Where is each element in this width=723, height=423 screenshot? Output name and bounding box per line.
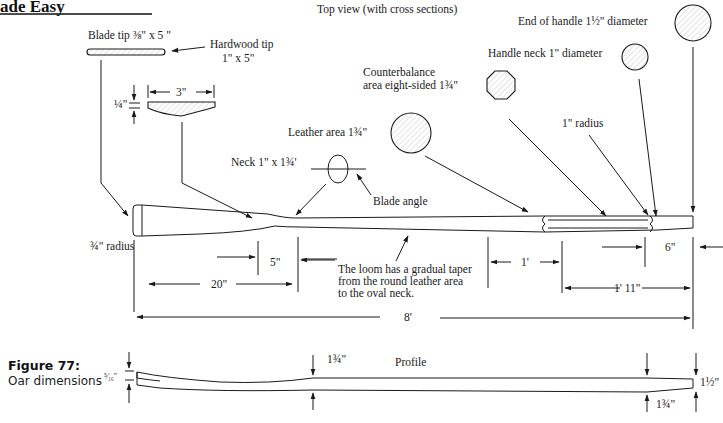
- figure-number: Figure 77:: [8, 358, 80, 373]
- leather-groove-right: [650, 216, 653, 232]
- blade-section-leader: [182, 122, 252, 218]
- loom-note-2: from the round leather area: [338, 275, 463, 287]
- handle-end-circle: [675, 5, 711, 41]
- blade-angle-label: Blade angle: [373, 195, 428, 208]
- leather-groove-left: [543, 216, 546, 232]
- profile-outline: [137, 372, 693, 392]
- profile-tip: [137, 372, 160, 381]
- top-view-title: Top view (with cross sections): [317, 3, 458, 16]
- neck-section: Neck 1" x 1¾' Blade angle: [231, 155, 428, 215]
- figure-caption: Figure 77: Oar dimensions: [8, 358, 102, 388]
- leather-area-label: Leather area 1¾": [288, 126, 367, 138]
- neck-leader: [296, 184, 326, 215]
- blade-tip-shape: [87, 49, 165, 55]
- counterbalance-label-2: area eight-sided 1¾": [363, 79, 458, 92]
- loom-note-3: to the oval neck.: [338, 287, 414, 299]
- handle-end-section: End of handle 1½" diameter: [518, 5, 711, 212]
- counterbalance-leader: [509, 119, 606, 216]
- figure-caption-text: Oar dimensions: [8, 374, 102, 388]
- handle-neck-circle: [622, 44, 648, 70]
- blade-tip-section: Blade tip ⅜" x 5 " Hardwood tip 1" x 5": [87, 29, 274, 216]
- dim-5-label: 5": [270, 256, 280, 268]
- leather-area-circle: [391, 113, 431, 153]
- profile-loom-label: 1¾": [327, 353, 346, 365]
- blade-cross-section: [148, 102, 215, 116]
- dim-8ft-label: 8': [404, 311, 412, 323]
- counterbalance-octagon: [487, 71, 515, 99]
- loom-note-arrow: [396, 236, 408, 261]
- counterbalance-label-1: Counterbalance: [363, 66, 435, 78]
- dim-1ft11-label: 1' 11": [614, 282, 640, 294]
- hardwood-tip-arrow: [172, 47, 205, 51]
- blade-tip-edge: [133, 205, 142, 236]
- blade-section: 3" ¼": [114, 85, 252, 218]
- oar-top-view: [133, 205, 693, 236]
- neck-label: Neck 1" x 1¾': [231, 156, 297, 168]
- dim-6-label: 6": [665, 241, 675, 253]
- hardwood-tip-size: 1" x 5": [222, 52, 254, 64]
- hardwood-tip-label: Hardwood tip: [210, 38, 274, 51]
- end-of-handle-label: End of handle 1½" diameter: [518, 15, 648, 27]
- three-inch-label: 3": [176, 86, 186, 98]
- blade-tip-leader: [101, 60, 128, 216]
- top-view-dimensions: 5" 20" The loom has a gradual taper from…: [134, 236, 723, 329]
- dim-1ft-label: 1': [521, 256, 529, 268]
- page-header: ade Easy: [0, 0, 152, 16]
- handle-neck-leader: [639, 79, 656, 216]
- profile-handle-start-label: 1¾": [656, 398, 675, 410]
- quarter-inch-label: ¼": [114, 98, 127, 110]
- three-quarter-radius-label: ¾" radius: [90, 240, 135, 252]
- blade-tip-label: Blade tip ⅜" x 5 ": [88, 29, 171, 42]
- five-sixteenths-label: ⁵⁄₁₆": [104, 372, 117, 381]
- blade-angle-arrow: [357, 174, 371, 195]
- dim-20-label: 20": [211, 278, 227, 290]
- leather-area-leader: [425, 156, 528, 212]
- profile-title: Profile: [395, 356, 426, 368]
- handle-neck-label: Handle neck 1" diameter: [488, 47, 602, 59]
- oar-dimensions-figure: ade Easy Figure 77: Oar dimensions Top v…: [0, 0, 723, 423]
- one-inch-radius-label: 1" radius: [562, 117, 604, 129]
- one-inch-radius-leader: [589, 135, 648, 215]
- profile-handle-end-label: 1½": [700, 376, 719, 388]
- profile-view: Profile ⁵⁄₁₆" 1¾" 1¾" 1½": [104, 352, 719, 412]
- handle-neck-section: Handle neck 1" diameter: [488, 44, 656, 216]
